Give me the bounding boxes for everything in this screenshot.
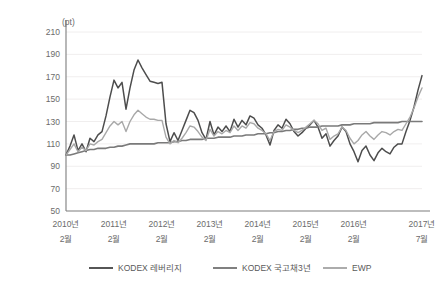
- y-tick-label: 110: [46, 139, 60, 149]
- x-tick-label-year: 2014년: [245, 219, 272, 229]
- y-tick-label: 50: [51, 206, 61, 216]
- x-tick-label-year: 2013년: [197, 219, 224, 229]
- x-tick-label-year: 2016년: [341, 219, 368, 229]
- y-tick-label: 150: [46, 94, 60, 104]
- gridlines: [66, 32, 422, 189]
- x-tick-label-month: 2월: [156, 234, 169, 244]
- y-tick-label: 90: [51, 161, 61, 171]
- x-tick-label-month: 7월: [416, 234, 429, 244]
- data-series-group: [66, 60, 422, 162]
- x-axis-tick-labels: 2010년2월2011년2월2012년2월2013년2월2014년2월2015년…: [53, 219, 436, 244]
- legend-label: EWP: [352, 263, 372, 273]
- x-tick-label-year: 2010년: [53, 219, 80, 229]
- legend-label: KODEX 레버리지: [118, 263, 182, 273]
- x-tick-label-month: 2월: [300, 234, 313, 244]
- x-tick-label-month: 2월: [348, 234, 361, 244]
- x-tick-label-year: 2011년: [101, 219, 127, 229]
- y-axis-unit-label: (pt): [62, 17, 75, 27]
- y-tick-label: 70: [51, 184, 61, 194]
- x-tick-label-year: 2012년: [149, 219, 176, 229]
- line-chart: 210190170150130110907050 2010년2월2011년2월2…: [0, 0, 439, 285]
- x-tick-label-month: 2월: [108, 234, 121, 244]
- x-tick-label-year: 2017년: [409, 219, 436, 229]
- y-tick-label: 130: [46, 117, 60, 127]
- y-tick-label: 170: [46, 72, 60, 82]
- chart-legend: KODEX 레버리지KODEX 국고채3년EWP: [89, 263, 372, 273]
- legend-label: KODEX 국고채3년: [242, 263, 311, 273]
- chart-container: 210190170150130110907050 2010년2월2011년2월2…: [0, 0, 439, 285]
- x-tick-label-month: 2월: [252, 234, 265, 244]
- y-tick-label: 190: [46, 49, 60, 59]
- x-tick-label-year: 2015년: [293, 219, 320, 229]
- y-tick-label: 210: [46, 27, 60, 37]
- x-tick-label-month: 2월: [60, 234, 73, 244]
- x-tick-label-month: 2월: [204, 234, 217, 244]
- y-axis-tick-labels: 210190170150130110907050: [46, 27, 60, 216]
